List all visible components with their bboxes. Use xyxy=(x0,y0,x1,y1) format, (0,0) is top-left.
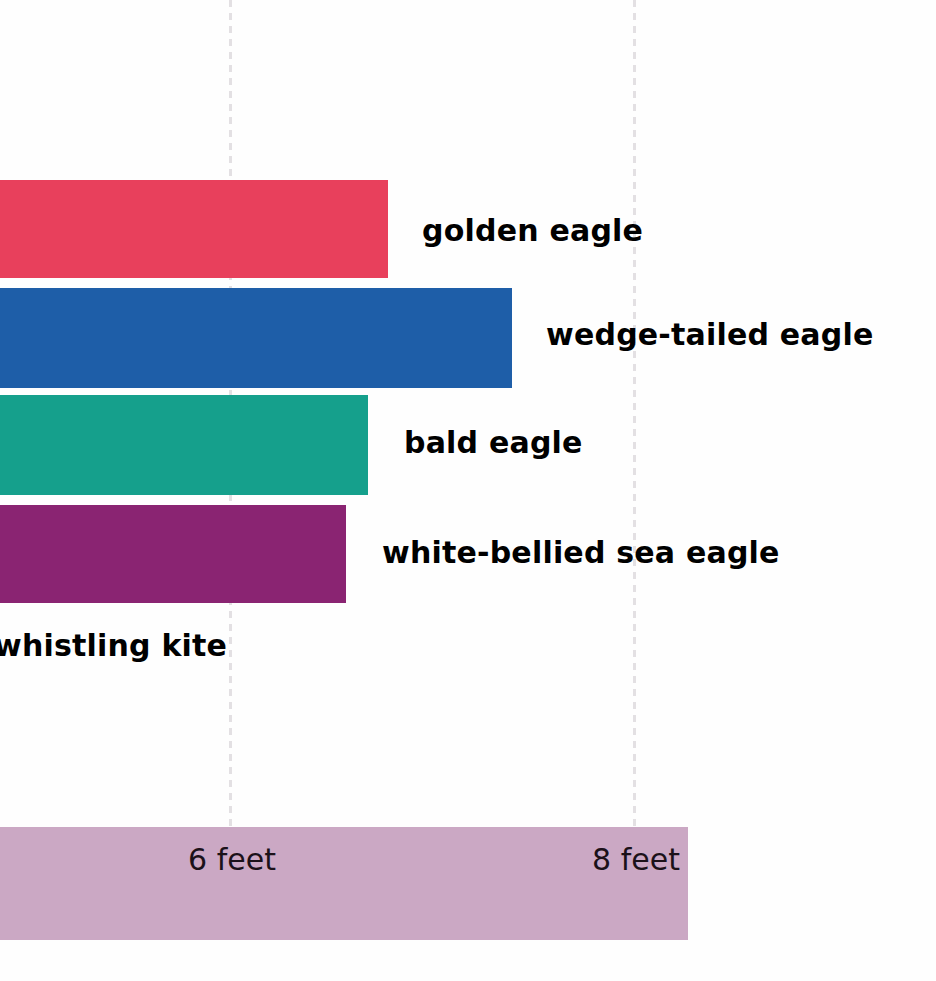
axis-tick-label-8-feet: 8 feet xyxy=(592,843,680,876)
bar-label-whistling-kite: whistling kite xyxy=(0,631,227,661)
axis-band xyxy=(0,827,688,940)
bar-chart-canvas: golden eagle wedge-tailed eagle bald eag… xyxy=(0,0,936,981)
bar-label-bald-eagle: bald eagle xyxy=(404,428,583,458)
bar-white-bellied-sea-eagle[interactable] xyxy=(0,505,346,603)
bar-wedge-tailed-eagle[interactable] xyxy=(0,288,512,388)
bar-row-white-bellied-sea-eagle xyxy=(0,505,346,603)
bar-bald-eagle[interactable] xyxy=(0,395,368,495)
bar-label-golden-eagle: golden eagle xyxy=(422,216,643,246)
bar-label-white-bellied-sea-eagle: white-bellied sea eagle xyxy=(382,538,780,568)
gridline-8-feet xyxy=(633,0,636,830)
bar-row-bald-eagle xyxy=(0,395,368,495)
bar-row-wedge-tailed-eagle xyxy=(0,288,512,388)
bar-label-wedge-tailed-eagle: wedge-tailed eagle xyxy=(546,320,874,350)
axis-tick-label-6-feet: 6 feet xyxy=(188,843,276,876)
bar-row-golden-eagle xyxy=(0,180,388,278)
bar-golden-eagle[interactable] xyxy=(0,180,388,278)
